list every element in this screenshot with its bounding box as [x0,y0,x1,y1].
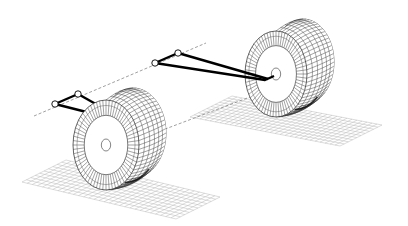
suspension-diagram [0,0,408,226]
pivot-joint-icon [52,101,58,107]
hub-icon [271,68,280,80]
left-wheel [73,88,166,190]
hub-icon [101,139,110,151]
right-wheel [245,19,334,117]
pivot-joint-icon [175,50,181,56]
pivot-joint-icon [75,91,81,97]
pivot-joint-icon [152,60,158,66]
